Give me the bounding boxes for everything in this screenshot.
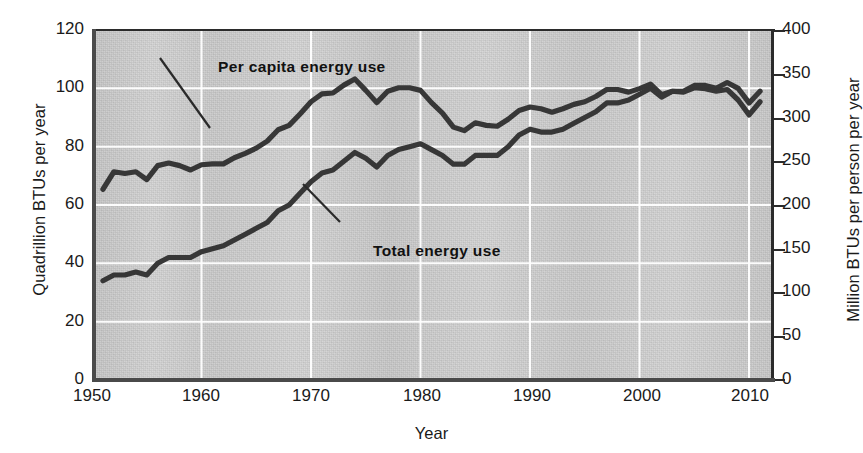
plot-border-top (92, 29, 775, 31)
y-axis-right-tick-400: 400 (782, 19, 842, 39)
x-axis-tick-1950: 1950 (52, 386, 132, 406)
plot-area: Per capita energy use Total energy use (92, 30, 771, 380)
x-axis-title: Year (92, 424, 771, 443)
y-axis-right-tick-100: 100 (782, 281, 842, 301)
right-tick-mark-300 (774, 118, 785, 120)
plot-canvas (92, 30, 771, 380)
right-tick-mark-250 (774, 161, 785, 163)
right-tick-mark-50 (774, 336, 785, 338)
leader-line-total (303, 184, 340, 222)
y-axis-right-tick-0: 0 (782, 369, 842, 389)
y-axis-left-tick-60: 60 (26, 194, 84, 214)
series-label-total-energy-use: Total energy use (373, 242, 501, 260)
y-axis-right-tick-250: 250 (782, 150, 842, 170)
series-label-per-capita-energy-use: Per capita energy use (218, 58, 386, 76)
right-tick-mark-350 (774, 74, 785, 76)
y-axis-left-tick-20: 20 (26, 311, 84, 331)
x-axis-tick-1980: 1980 (382, 386, 462, 406)
y-axis-right-tick-50: 50 (782, 325, 842, 345)
right-tick-mark-200 (774, 205, 785, 207)
x-axis-tick-2010: 2010 (710, 386, 790, 406)
y-axis-left-tick-40: 40 (26, 252, 84, 272)
plot-border-left (92, 29, 96, 382)
x-axis-tick-1990: 1990 (492, 386, 572, 406)
y-axis-right-tick-150: 150 (782, 238, 842, 258)
plot-border-right (771, 29, 774, 382)
right-tick-mark-100 (774, 292, 785, 294)
y-axis-left-tick-80: 80 (26, 136, 84, 156)
right-tick-mark-150 (774, 249, 785, 251)
y-axis-left-tick-120: 120 (26, 19, 84, 39)
x-axis-tick-1970: 1970 (271, 386, 351, 406)
y-axis-right-tick-350: 350 (782, 63, 842, 83)
y-axis-right-tick-300: 300 (782, 107, 842, 127)
right-tick-mark-400 (774, 30, 785, 32)
y-axis-left-tick-100: 100 (26, 77, 84, 97)
y-axis-right-tick-200: 200 (782, 194, 842, 214)
right-tick-mark-0 (774, 379, 785, 381)
plot-border-bottom (92, 378, 775, 382)
x-axis-tick-2000: 2000 (602, 386, 682, 406)
x-axis-tick-1960: 1960 (161, 386, 241, 406)
gridlines-horizontal (92, 88, 771, 321)
energy-use-chart-figure: Quadrillion BTUs per year Million BTUs p… (0, 0, 863, 453)
y-axis-right-title: Million BTUs per person per year (844, 35, 863, 365)
